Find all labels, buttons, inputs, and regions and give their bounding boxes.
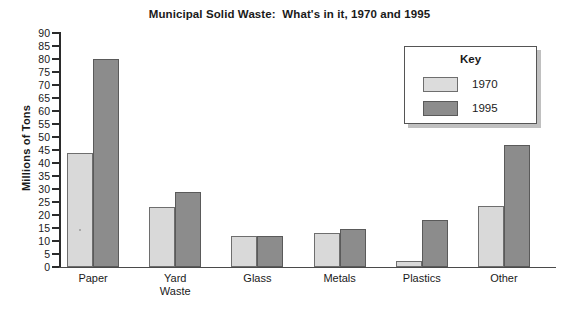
- y-tick-label-wrap: 65: [0, 93, 50, 103]
- bar-paper-1995: [93, 59, 119, 267]
- y-tick-label: 20: [4, 210, 50, 220]
- y-tick-mark: [52, 71, 59, 72]
- x-category-label: Glass: [217, 272, 297, 285]
- bar-paper-1970: [67, 153, 93, 267]
- legend-swatch-1970: [423, 77, 458, 92]
- x-category-label: Paper: [53, 272, 133, 285]
- y-tick-mark: [52, 227, 59, 228]
- y-tick-label-wrap: 15: [0, 223, 50, 233]
- y-tick-mark: [52, 162, 59, 163]
- y-tick-label-wrap: 0: [0, 262, 50, 272]
- y-tick-label: 0: [4, 262, 50, 272]
- y-tick-mark: [52, 188, 59, 189]
- y-tick-mark: [52, 110, 59, 111]
- bar-yard-waste-1995: [175, 192, 201, 267]
- y-tick-label-wrap: 40: [0, 158, 50, 168]
- y-tick-label-wrap: 30: [0, 184, 50, 194]
- y-tick-label: 55: [4, 119, 50, 129]
- y-tick-mark: [52, 97, 59, 98]
- y-tick-label: 15: [4, 223, 50, 233]
- y-tick-label: 40: [4, 158, 50, 168]
- bar-glass-1995: [257, 236, 283, 267]
- bar-other-1995: [504, 145, 530, 267]
- y-tick-label-wrap: 60: [0, 106, 50, 116]
- y-tick-label-wrap: 45: [0, 145, 50, 155]
- legend-title: Key: [405, 53, 536, 65]
- y-tick-label: 90: [4, 28, 50, 38]
- y-tick-label-wrap: 55: [0, 119, 50, 129]
- legend-label-1970: 1970: [472, 78, 498, 90]
- y-tick-label: 10: [4, 236, 50, 246]
- y-tick-label: 80: [4, 54, 50, 64]
- y-tick-label: 65: [4, 93, 50, 103]
- legend-box: Key 1970 1995: [404, 46, 537, 124]
- y-tick-mark: [52, 214, 59, 215]
- y-tick-label-wrap: 70: [0, 80, 50, 90]
- y-tick-label-wrap: 5: [0, 249, 50, 259]
- y-tick-mark: [52, 253, 59, 254]
- y-tick-label: 5: [4, 249, 50, 259]
- y-tick-label-wrap: 10: [0, 236, 50, 246]
- bar-glass-1970: [231, 236, 257, 267]
- y-tick-mark: [52, 266, 59, 267]
- bar-chart: Municipal Solid Waste: What's in it, 197…: [0, 0, 579, 324]
- y-tick-mark: [52, 240, 59, 241]
- y-tick-label-wrap: 80: [0, 54, 50, 64]
- y-tick-label: 50: [4, 132, 50, 142]
- y-tick-mark: [52, 58, 59, 59]
- x-category-label: Other: [464, 272, 544, 285]
- scan-artifact-speck: [79, 229, 81, 231]
- y-tick-label: 35: [4, 171, 50, 181]
- bar-plastics-1970: [396, 261, 422, 268]
- y-tick-mark: [52, 136, 59, 137]
- y-tick-mark: [52, 45, 59, 46]
- legend-swatch-1995: [423, 101, 458, 116]
- chart-title: Municipal Solid Waste: What's in it, 197…: [0, 8, 579, 20]
- x-category-label: Yard Waste: [135, 272, 215, 297]
- y-tick-label-wrap: 75: [0, 67, 50, 77]
- legend-item-1970: 1970: [423, 75, 533, 93]
- y-tick-label: 30: [4, 184, 50, 194]
- y-tick-label: 70: [4, 80, 50, 90]
- y-tick-mark: [52, 84, 59, 85]
- y-tick-mark: [52, 201, 59, 202]
- y-tick-label: 75: [4, 67, 50, 77]
- y-tick-label-wrap: 90: [0, 28, 50, 38]
- y-tick-label: 45: [4, 145, 50, 155]
- y-tick-mark: [52, 32, 59, 33]
- y-tick-label-wrap: 85: [0, 41, 50, 51]
- y-tick-mark: [52, 149, 59, 150]
- bar-plastics-1995: [422, 220, 448, 267]
- bar-yard-waste-1970: [149, 207, 175, 267]
- y-tick-label-wrap: 35: [0, 171, 50, 181]
- bar-metals-1970: [314, 233, 340, 267]
- legend-label-1995: 1995: [472, 102, 498, 114]
- bar-other-1970: [478, 206, 504, 267]
- y-tick-label-wrap: 50: [0, 132, 50, 142]
- legend-item-1995: 1995: [423, 99, 533, 117]
- y-tick-label: 85: [4, 41, 50, 51]
- x-category-label: Plastics: [382, 272, 462, 285]
- x-category-label: Metals: [300, 272, 380, 285]
- y-tick-label-wrap: 20: [0, 210, 50, 220]
- y-tick-label: 60: [4, 106, 50, 116]
- y-tick-label-wrap: 25: [0, 197, 50, 207]
- bar-metals-1995: [340, 229, 366, 267]
- y-tick-label: 25: [4, 197, 50, 207]
- y-tick-mark: [52, 175, 59, 176]
- y-tick-mark: [52, 123, 59, 124]
